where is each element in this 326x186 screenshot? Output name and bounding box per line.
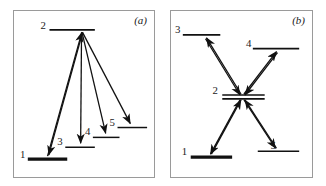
level-label-5: 5 [271,139,276,151]
transition-1-to-2 [48,32,82,156]
panel-b: (b) [170,10,313,178]
level-label-1: 1 [182,145,187,157]
level-label-2: 2 [41,19,46,31]
transition-1-to-2 [211,100,241,154]
panel-a: (a) [13,10,155,178]
transition-2-to-1 [49,32,83,155]
transition-2-to-3 [81,32,82,143]
panel-a-levels [28,30,147,159]
level-label-2: 2 [212,84,217,96]
level-label-5: 5 [110,116,115,128]
panel-b-canvas: 1 2 3 4 5 [171,11,312,177]
panel-b-level-labels: 1 2 3 4 5 [175,23,276,157]
level-label-4: 4 [85,125,91,137]
panel-b-levels [183,35,299,157]
transition-2-to-4 [82,32,106,133]
transition-2-to-4 [244,52,277,94]
transition-2-to-5 [83,32,131,123]
transition-2-to-1 [210,100,240,154]
transition-3-to-2 [206,39,241,95]
level-label-4: 4 [246,37,252,49]
level-label-3: 3 [57,135,62,147]
panel-a-canvas: 1 2 3 4 5 [14,11,154,177]
level-label-1: 1 [20,148,25,160]
level-label-3: 3 [175,23,180,35]
transition-4-to-2 [245,53,278,95]
energy-level-diagram-figure: (a) [0,0,326,186]
